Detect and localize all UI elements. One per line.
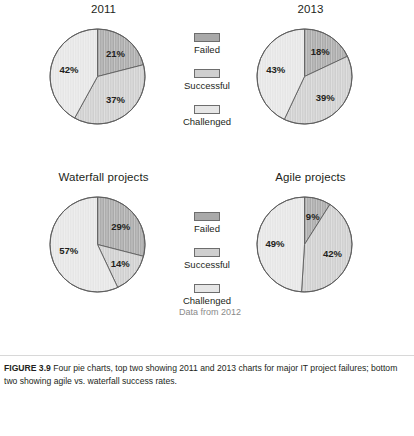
pie-slice-value-label: 42% xyxy=(323,248,343,259)
legend-label-challenged: Challenged xyxy=(171,116,243,127)
pie-slice-value-label: 21% xyxy=(106,48,126,59)
pie-slice-value-label: 14% xyxy=(111,258,131,269)
pie-svg: 21%37%42% xyxy=(49,28,146,125)
legend-label-challenged: Challenged xyxy=(171,295,243,306)
pie-slice-value-label: 57% xyxy=(59,245,79,256)
pie-slice-value-label: 49% xyxy=(266,238,286,249)
legend-label-failed: Failed xyxy=(171,44,243,55)
legend-label-successful: Successful xyxy=(171,80,243,91)
legend-top: Failed Successful Challenged xyxy=(171,33,243,127)
legend-swatch-failed xyxy=(194,212,220,221)
legend-label-failed: Failed xyxy=(171,223,243,234)
legend-item-successful: Successful xyxy=(171,248,243,270)
pie-svg: 9%42%49% xyxy=(256,196,353,293)
figure-area: 2011 21%37%42% 2013 18%39%43% Waterfall … xyxy=(0,0,414,352)
pie-canvas: 21%37%42% xyxy=(49,28,146,125)
legend-swatch-failed xyxy=(194,33,220,42)
legend-swatch-successful xyxy=(194,248,220,257)
legend-swatch-challenged xyxy=(194,105,220,114)
pie-canvas: 29%14%57% xyxy=(49,196,146,293)
chart-title: Agile projects xyxy=(207,171,414,183)
pie-svg: 18%39%43% xyxy=(256,28,353,125)
pie-canvas: 9%42%49% xyxy=(256,196,353,293)
legend-item-successful: Successful xyxy=(171,69,243,91)
chart-title: 2011 xyxy=(0,3,207,15)
legend-label-successful: Successful xyxy=(171,259,243,270)
legend-item-challenged: Challenged xyxy=(171,105,243,127)
pie-slice-value-label: 18% xyxy=(311,46,331,57)
pie-slice-value-label: 42% xyxy=(59,64,79,75)
legend-bottom: Failed Successful Challenged xyxy=(171,212,243,306)
pie-slice-value-label: 39% xyxy=(316,92,336,103)
figure-caption-text: Four pie charts, top two showing 2011 an… xyxy=(4,363,397,386)
legend-swatch-challenged xyxy=(194,284,220,293)
data-source-note: Data from 2012 xyxy=(160,307,260,317)
pie-slice-value-label: 43% xyxy=(266,64,286,75)
legend-swatch-successful xyxy=(194,69,220,78)
pie-canvas: 18%39%43% xyxy=(256,28,353,125)
pie-slice-value-label: 9% xyxy=(306,211,320,222)
pie-slice-value-label: 37% xyxy=(106,94,126,105)
figure-caption: FIGURE 3.9 Four pie charts, top two show… xyxy=(4,362,410,389)
legend-item-failed: Failed xyxy=(171,33,243,55)
chart-title: 2013 xyxy=(207,3,414,15)
pie-svg: 29%14%57% xyxy=(49,196,146,293)
legend-item-failed: Failed xyxy=(171,212,243,234)
pie-slice-value-label: 29% xyxy=(111,221,131,232)
figure-divider xyxy=(0,355,414,356)
legend-item-challenged: Challenged xyxy=(171,284,243,306)
figure-caption-label: FIGURE 3.9 xyxy=(4,363,51,373)
chart-title: Waterfall projects xyxy=(0,171,207,183)
